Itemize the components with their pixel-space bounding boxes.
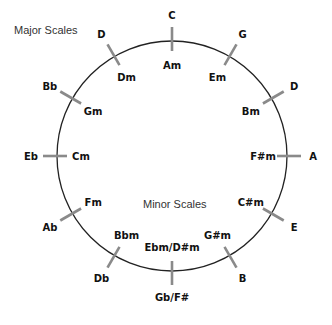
major-key-label: Bb (42, 81, 57, 92)
minor-key-label: F#m (250, 151, 276, 162)
major-key-label: D (290, 81, 298, 92)
major-key-label: C (168, 10, 175, 21)
major-key-label: Gb/F# (155, 292, 189, 303)
major-key-label: E (291, 222, 298, 233)
minor-key-label: Dm (117, 72, 136, 83)
major-key-label: Ab (42, 222, 57, 233)
minor-key-label: Em (209, 72, 226, 83)
major-scales-caption: Major Scales (14, 24, 78, 36)
major-key-label: Db (94, 273, 109, 284)
minor-key-label: G#m (204, 230, 231, 241)
minor-key-label: Cm (72, 151, 90, 162)
minor-key-label: Fm (85, 197, 102, 208)
major-key-label: B (239, 273, 247, 284)
minor-key-label: Ebm/D#m (144, 242, 199, 253)
major-key-label: Eb (24, 151, 38, 162)
major-key-label: G (238, 29, 246, 40)
minor-key-label: Am (163, 60, 181, 71)
major-key-label: D (97, 29, 105, 40)
circle-of-fifths-diagram: CGDAEBGb/F#DbAbEbBbD AmEmBmF#mC#mG#mEbm/… (0, 0, 332, 325)
major-key-label: A (309, 151, 317, 162)
minor-scales-caption: Minor Scales (143, 198, 207, 210)
minor-key-label: C#m (238, 197, 264, 208)
minor-key-labels: AmEmBmF#mC#mG#mEbm/D#mBbmFmCmGmDm (72, 60, 276, 253)
minor-key-label: Gm (84, 106, 103, 117)
minor-key-label: Bbm (114, 230, 139, 241)
minor-key-label: Bm (242, 106, 260, 117)
